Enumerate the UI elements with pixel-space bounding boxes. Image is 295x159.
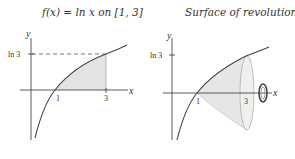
diagram-canvas: y x ln 3 1 3 y x ln 3 1 3: [0, 0, 295, 159]
ln3-label: ln 3: [150, 51, 162, 60]
y-axis-label: y: [166, 30, 172, 41]
x-axis-label: x: [128, 85, 134, 96]
ln3-label: ln 3: [8, 50, 20, 59]
x1-label: 1: [196, 97, 200, 106]
x1-label: 1: [56, 94, 60, 103]
right-plot: y x ln 3 1 3: [150, 30, 278, 140]
left-plot: y x ln 3 1 3: [8, 28, 134, 140]
x-axis-label: x: [272, 87, 278, 98]
y-axis-label: y: [25, 28, 31, 39]
x3-label: 3: [244, 97, 248, 106]
ln-curve: [35, 45, 127, 138]
x3-label: 3: [104, 94, 108, 103]
shaded-area: [55, 54, 106, 90]
